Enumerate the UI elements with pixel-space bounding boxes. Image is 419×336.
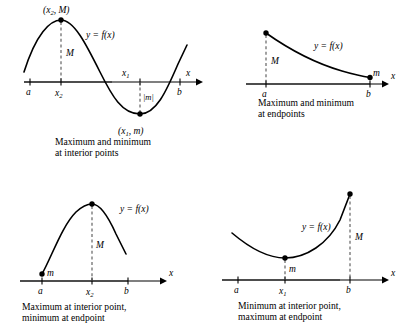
label-tick-a: a — [26, 87, 31, 97]
label-tick-a: a — [38, 286, 43, 296]
label-min-marker: m — [289, 264, 296, 274]
extreme-value-figure: (x2, M) (x1, m) M |m| x1 x a x2 b y = f(… — [0, 0, 419, 336]
label-tick-b: b — [124, 286, 129, 296]
panel-caption: Maximum and minimum at endpoints — [258, 97, 354, 120]
point-maximum — [89, 201, 94, 206]
panel-maximum-interior-minimum-endpoint: M m a x2 b x y = f(x) Maximum at interio… — [0, 168, 210, 336]
label-tick-x1: x1 — [278, 286, 287, 297]
label-tick-x2: x2 — [85, 287, 94, 298]
label-x-axis: x — [185, 68, 191, 78]
label-tick-a: a — [234, 285, 239, 295]
label-tick-b: b — [177, 87, 182, 97]
x-axis-arrow-icon — [160, 278, 167, 285]
label-tick-x2: x2 — [54, 88, 63, 99]
label-min-depth: |m| — [143, 92, 154, 102]
point-minimum — [137, 111, 142, 116]
label-function: y = f(x) — [85, 30, 115, 41]
panel-caption: Maximum at interior point, minimum at en… — [22, 301, 126, 324]
x-axis-arrow-icon — [382, 81, 389, 88]
panel-caption: Maximum and minimum at interior points — [55, 136, 151, 159]
label-x-axis: x — [390, 71, 396, 81]
panel-minimum-interior-maximum-endpoint: m M a x1 b x y = f(x) Minimum at interio… — [210, 168, 419, 336]
label-min-marker: m — [373, 68, 380, 78]
label-function: y = f(x) — [301, 222, 331, 233]
point-maximum — [347, 191, 352, 196]
label-max-height: M — [354, 232, 364, 242]
label-tick-b: b — [366, 89, 371, 99]
function-curve — [266, 33, 370, 78]
point-minimum — [282, 255, 287, 260]
label-max-height: M — [65, 48, 75, 58]
label-tick-b: b — [346, 285, 351, 295]
point-maximum — [58, 17, 63, 22]
label-max-height: M — [270, 56, 280, 66]
label-function: y = f(x) — [119, 204, 149, 215]
label-min-marker: m — [47, 268, 54, 278]
label-x-axis: x — [390, 268, 396, 278]
label-x-axis: x — [168, 268, 174, 278]
label-max-height: M — [95, 240, 105, 250]
label-max-point: (x2, M) — [43, 5, 70, 16]
point-maximum — [263, 30, 268, 35]
panel-caption: Minimum at interior point, maximum at en… — [238, 300, 341, 323]
function-curve — [42, 204, 126, 274]
label-function: y = f(x) — [313, 41, 343, 52]
label-tick-x1: x1 — [121, 68, 130, 79]
panel-tr-graph: M m a b x y = f(x) — [210, 0, 419, 168]
x-axis-arrow-icon — [382, 277, 389, 284]
panel-maximum-minimum-endpoints: M m a b x y = f(x) Maximum and minimum a… — [210, 0, 419, 168]
x-axis-arrow-icon — [196, 79, 203, 86]
point-minimum — [367, 75, 372, 80]
function-curve — [232, 194, 350, 258]
point-minimum — [39, 271, 44, 276]
panel-maximum-minimum-interior: (x2, M) (x1, m) M |m| x1 x a x2 b y = f(… — [0, 0, 210, 168]
